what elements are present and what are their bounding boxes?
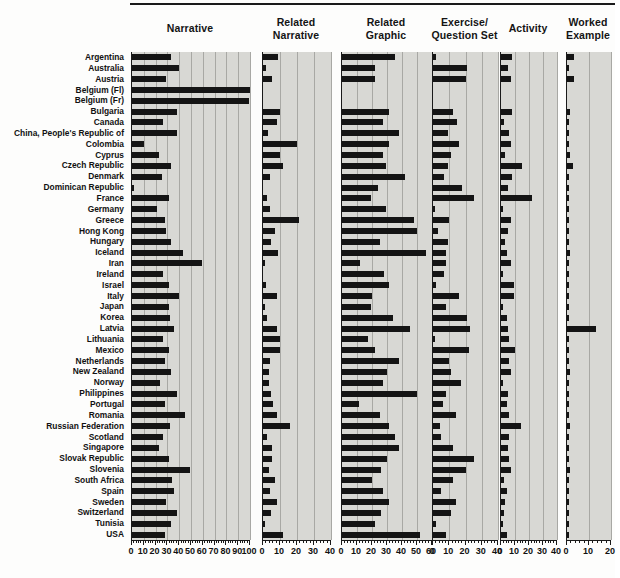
category-label: Hong Kong	[0, 226, 128, 237]
bar-row	[263, 345, 331, 356]
bar-row	[501, 236, 557, 247]
bar	[567, 163, 573, 169]
bar-row	[567, 410, 611, 421]
axis-tick-minor	[209, 540, 210, 543]
bar	[263, 488, 270, 494]
axis-tick-label: 0	[429, 546, 434, 556]
bar	[263, 174, 270, 180]
bar-row	[132, 410, 250, 421]
bar-row	[501, 464, 557, 475]
bar-row	[132, 171, 250, 182]
bar-row	[433, 432, 498, 443]
bar	[132, 401, 165, 407]
bar	[263, 380, 269, 386]
bar-row	[567, 421, 611, 432]
bar-row	[263, 74, 331, 85]
axis-tick-minor	[140, 540, 141, 543]
bar-row	[433, 204, 498, 215]
axis-tick-major	[190, 540, 191, 545]
bar	[433, 54, 436, 60]
bar-row	[263, 366, 331, 377]
bar-row	[132, 117, 250, 128]
axis-tick-major	[481, 540, 482, 545]
bar-row	[132, 63, 250, 74]
bar-row	[501, 182, 557, 193]
axis-tick-minor	[520, 540, 521, 543]
bar	[342, 369, 387, 375]
bar	[342, 423, 389, 429]
bar	[501, 304, 503, 310]
bar-row	[342, 410, 432, 421]
bar-row	[342, 106, 432, 117]
bar	[263, 282, 266, 288]
bar	[132, 358, 165, 364]
bar-row	[567, 291, 611, 302]
bar-row	[342, 388, 432, 399]
plot-panel	[432, 52, 498, 540]
axis-tick-minor	[230, 540, 231, 543]
bar-row	[132, 388, 250, 399]
axis-tick-label: 10	[583, 546, 593, 556]
bar	[501, 228, 508, 234]
axis-tick-major	[202, 540, 203, 545]
bar-row	[342, 345, 432, 356]
axis-tick-minor	[164, 540, 165, 543]
category-label: South Africa	[0, 475, 128, 486]
bar	[567, 532, 569, 538]
bar-row	[567, 204, 611, 215]
bar	[263, 228, 275, 234]
bar	[263, 467, 269, 473]
axis-tick-minor	[491, 540, 492, 543]
bar	[132, 380, 160, 386]
bar	[567, 380, 569, 386]
bar-row	[342, 204, 432, 215]
category-label: Mexico	[0, 345, 128, 356]
bar	[567, 456, 569, 462]
axis-tick-minor	[197, 540, 198, 543]
axis-tick-minor	[407, 540, 408, 543]
bar-row	[263, 193, 331, 204]
axis-tick-minor	[272, 540, 273, 543]
category-label: Portugal	[0, 399, 128, 410]
bar-row	[342, 442, 432, 453]
axis-tick-label: 40	[551, 546, 561, 556]
bar-row	[342, 486, 432, 497]
axis-tick-minor	[199, 540, 200, 543]
axis-tick-minor	[320, 540, 321, 543]
axis-tick-minor	[293, 540, 294, 543]
bar-row	[567, 63, 611, 74]
bar	[132, 271, 163, 277]
bar	[501, 65, 508, 71]
bar	[567, 488, 569, 494]
bar	[567, 477, 569, 483]
bar	[501, 445, 508, 451]
axis-tick-label: 80	[220, 546, 230, 556]
category-label: France	[0, 193, 128, 204]
bar-row	[501, 247, 557, 258]
bar	[342, 401, 359, 407]
axis-tick-minor	[247, 540, 248, 543]
bar	[263, 65, 266, 71]
bar-row	[567, 150, 611, 161]
bar	[342, 65, 375, 71]
bar	[501, 141, 511, 147]
bar-row	[501, 377, 557, 388]
bar	[433, 391, 446, 397]
bar	[263, 217, 299, 223]
axis-tick-minor	[176, 540, 177, 543]
bar	[567, 54, 574, 60]
bar	[342, 217, 414, 223]
bar	[433, 532, 446, 538]
column-header-worked-example: WorkedExample	[546, 16, 620, 41]
axis-tick-minor	[579, 540, 580, 543]
axis-tick-label: 30	[476, 546, 486, 556]
category-label: Philippines	[0, 388, 128, 399]
axis-tick-major	[341, 540, 342, 545]
bar-row	[433, 258, 498, 269]
bar	[132, 141, 144, 147]
bar-row	[567, 312, 611, 323]
bar-row	[132, 247, 250, 258]
bar-row	[501, 171, 557, 182]
bar	[433, 499, 456, 505]
bar-row	[342, 518, 432, 529]
